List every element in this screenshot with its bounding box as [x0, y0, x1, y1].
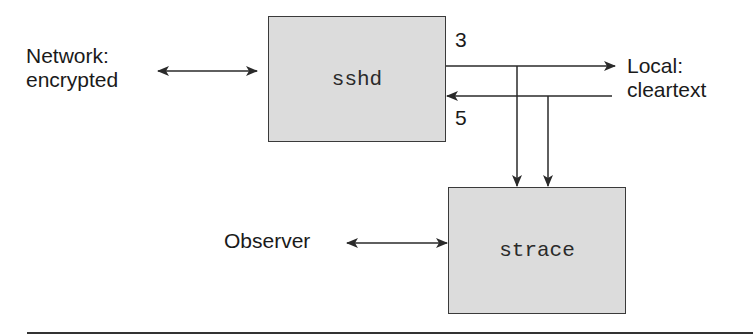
- diagram-canvas: Network: encrypted sshd 3 5 Local: clear…: [0, 0, 753, 336]
- connectors: [0, 0, 753, 336]
